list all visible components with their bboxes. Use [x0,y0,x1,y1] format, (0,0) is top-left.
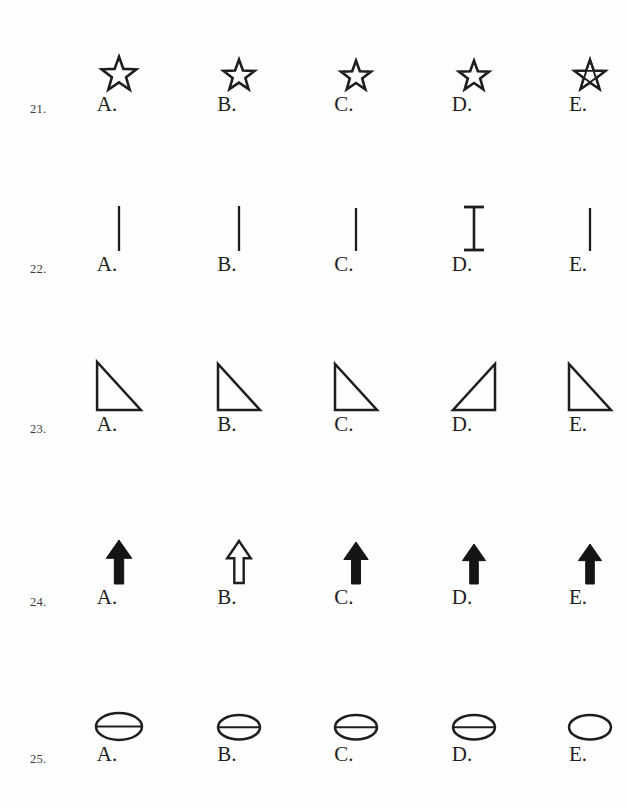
option-cell[interactable]: B. [180,523,298,643]
shape-triangle-left-icon [531,350,627,412]
option-letter: B. [180,412,298,436]
option-letter: E. [531,585,627,609]
option-cell[interactable]: B. [180,190,298,310]
option-cell[interactable]: A. [60,190,178,310]
shape-ellipse-plain-icon [531,680,627,742]
option-letter: E. [531,252,627,276]
option-cell[interactable]: C. [297,190,415,310]
question-row-24: 24. A. B. C. D. E. [0,523,627,643]
shape-line-plain-icon [60,190,178,252]
shape-star-outline-icon [60,30,178,92]
question-row-25: 25. A. B. C. D. E. [0,680,627,800]
shape-ellipse-barred-icon [415,680,533,742]
option-cell[interactable]: E. [531,680,627,800]
option-letter: B. [180,585,298,609]
shape-arrow-filled-icon [415,523,533,585]
option-letter: A. [60,252,178,276]
option-letter: C. [297,585,415,609]
option-cell[interactable]: D. [415,190,533,310]
shape-arrow-hollow-icon [180,523,298,585]
option-letter: D. [415,252,533,276]
option-cell[interactable]: B. [180,350,298,470]
option-cell[interactable]: A. [60,30,178,150]
shape-triangle-left-icon [60,350,178,412]
option-letter: E. [531,742,627,766]
option-cell[interactable]: C. [297,30,415,150]
shape-star-outline-icon [297,30,415,92]
shape-line-plain-icon [180,190,298,252]
shape-ellipse-barred-icon [60,680,178,742]
shape-triangle-left-icon [297,350,415,412]
shape-ellipse-barred-icon [297,680,415,742]
question-row-23: 23. A. B. C. D. E. [0,350,627,470]
option-letter: D. [415,742,533,766]
option-letter: C. [297,252,415,276]
option-letter: E. [531,412,627,436]
option-letter: A. [60,92,178,116]
shape-line-plain-icon [297,190,415,252]
option-letter: A. [60,585,178,609]
answer-sheet: 21. A. B. C. D. E. 22. A. B. [0,0,627,808]
question-number: 25. [30,752,47,767]
option-cell[interactable]: D. [415,350,533,470]
shape-arrow-filled-icon [297,523,415,585]
shape-triangle-left-icon [180,350,298,412]
option-letter: D. [415,92,533,116]
option-cell[interactable]: C. [297,350,415,470]
shape-star-outline-icon [415,30,533,92]
shape-star-outline-icon [180,30,298,92]
option-letter: C. [297,412,415,436]
option-cell[interactable]: D. [415,680,533,800]
option-cell[interactable]: A. [60,350,178,470]
shape-arrow-filled-icon [60,523,178,585]
question-number: 24. [30,595,47,610]
option-cell[interactable]: A. [60,680,178,800]
shape-ellipse-barred-icon [180,680,298,742]
question-row-21: 21. A. B. C. D. E. [0,30,627,150]
option-letter: C. [297,92,415,116]
option-letter: A. [60,742,178,766]
shape-line-serif-icon [415,190,533,252]
option-cell[interactable]: E. [531,350,627,470]
option-letter: A. [60,412,178,436]
option-letter: B. [180,92,298,116]
question-number: 21. [30,102,47,117]
option-cell[interactable]: D. [415,30,533,150]
option-cell[interactable]: E. [531,30,627,150]
option-cell[interactable]: B. [180,680,298,800]
shape-triangle-right-icon [415,350,533,412]
shape-line-plain-icon [531,190,627,252]
shape-arrow-filled-icon [531,523,627,585]
option-letter: D. [415,585,533,609]
option-cell[interactable]: A. [60,523,178,643]
option-cell[interactable]: C. [297,523,415,643]
option-cell[interactable]: E. [531,190,627,310]
option-cell[interactable]: E. [531,523,627,643]
option-cell[interactable]: C. [297,680,415,800]
option-letter: E. [531,92,627,116]
shape-star-pentagram-icon [531,30,627,92]
option-letter: C. [297,742,415,766]
option-cell[interactable]: D. [415,523,533,643]
option-cell[interactable]: B. [180,30,298,150]
option-letter: B. [180,252,298,276]
option-letter: D. [415,412,533,436]
question-number: 23. [30,422,47,437]
question-row-22: 22. A. B. C. D. E. [0,190,627,310]
option-letter: B. [180,742,298,766]
question-number: 22. [30,262,47,277]
